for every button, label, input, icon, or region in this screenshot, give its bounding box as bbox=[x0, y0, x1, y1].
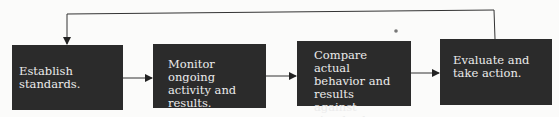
step-label: Monitor ongoing activity and results. bbox=[168, 58, 258, 108]
feedback-arrow-b4-b1 bbox=[67, 10, 495, 44]
step-compare-results: Compare actual behavior and results agai… bbox=[297, 41, 411, 106]
step-evaluate-action: Evaluate and take action. bbox=[440, 39, 552, 105]
step-label: Establish standards. bbox=[19, 65, 123, 91]
speck-mark bbox=[394, 29, 398, 33]
step-label: Evaluate and take action. bbox=[453, 54, 549, 105]
step-establish-standards: Establish standards. bbox=[12, 45, 123, 110]
step-label: Compare actual behavior and results agai… bbox=[314, 49, 398, 106]
step-monitor-activity: Monitor ongoing activity and results. bbox=[153, 44, 266, 108]
